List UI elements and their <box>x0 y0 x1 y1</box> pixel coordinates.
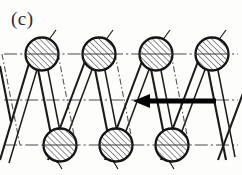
figure-panel: (c) <box>0 0 242 175</box>
coil-winding-diagram <box>0 0 242 175</box>
panel-label: (c) <box>11 9 34 28</box>
strand-down-0-a <box>0 66 11 122</box>
direction-arrow <box>133 94 216 108</box>
